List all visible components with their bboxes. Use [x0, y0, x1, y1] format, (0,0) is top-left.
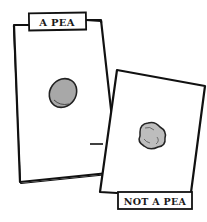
label-not-a-pea: NOT A PEA [124, 196, 187, 207]
card-a-pea: A PEA [14, 12, 118, 183]
illustration: A PEA NOT A PEA [0, 0, 207, 222]
label-a-pea: A PEA [38, 17, 75, 28]
